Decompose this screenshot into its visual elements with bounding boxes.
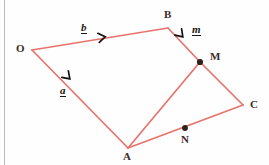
point-marker-N bbox=[182, 125, 188, 131]
vector-label-m: m bbox=[192, 24, 201, 36]
point-marker-M bbox=[197, 59, 203, 65]
point-label-C: C bbox=[250, 99, 258, 110]
point-label-A: A bbox=[123, 151, 131, 162]
vector-diagram-canvas: O B M C N A b a m bbox=[0, 0, 269, 165]
arrowhead-on-OB bbox=[98, 32, 106, 42]
point-label-B: B bbox=[164, 9, 172, 20]
segment-MC bbox=[200, 62, 243, 105]
figure-geometry bbox=[0, 0, 269, 165]
segment-OB bbox=[32, 28, 168, 50]
vector-label-b: b bbox=[81, 22, 87, 34]
point-label-O: O bbox=[16, 43, 25, 54]
vector-label-a: a bbox=[60, 85, 66, 97]
point-label-M: M bbox=[210, 51, 221, 62]
point-label-N: N bbox=[181, 134, 189, 145]
arrowhead-on-OA bbox=[62, 71, 73, 82]
segment-OA bbox=[32, 50, 128, 148]
arrowhead-group bbox=[62, 29, 186, 82]
